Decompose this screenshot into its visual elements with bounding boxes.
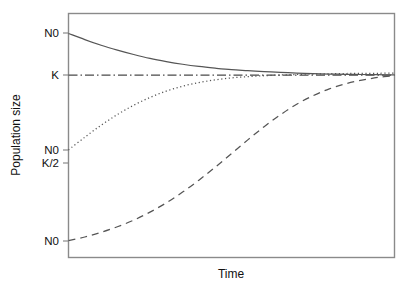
y-tick-label-n0-mid: N0 xyxy=(44,144,59,156)
chart-figure: N0 K N0 K/2 N0 Population size Time xyxy=(0,0,416,287)
series-logistic-from-near-k-half xyxy=(69,73,395,150)
y-axis-title: Population size xyxy=(9,94,23,176)
y-tick-label-k-half: K/2 xyxy=(42,157,59,169)
y-tick-label-n0-bottom: N0 xyxy=(44,235,59,247)
y-axis-ticks xyxy=(63,33,69,241)
series-logistic-from-low-n0 xyxy=(69,76,395,241)
y-tick-label-k: K xyxy=(51,69,59,81)
chart-canvas: N0 K N0 K/2 N0 Population size Time xyxy=(0,0,416,287)
y-tick-label-n0-top: N0 xyxy=(44,27,59,39)
x-axis-title: Time xyxy=(218,267,245,281)
series-decline-to-k xyxy=(69,34,395,75)
